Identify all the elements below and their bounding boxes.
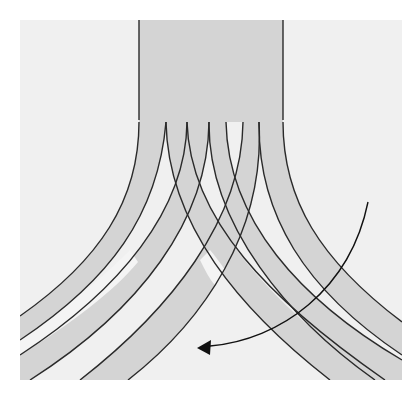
diagram-canvas (0, 0, 413, 405)
weave-diagram (0, 0, 413, 405)
top-band (139, 20, 283, 122)
